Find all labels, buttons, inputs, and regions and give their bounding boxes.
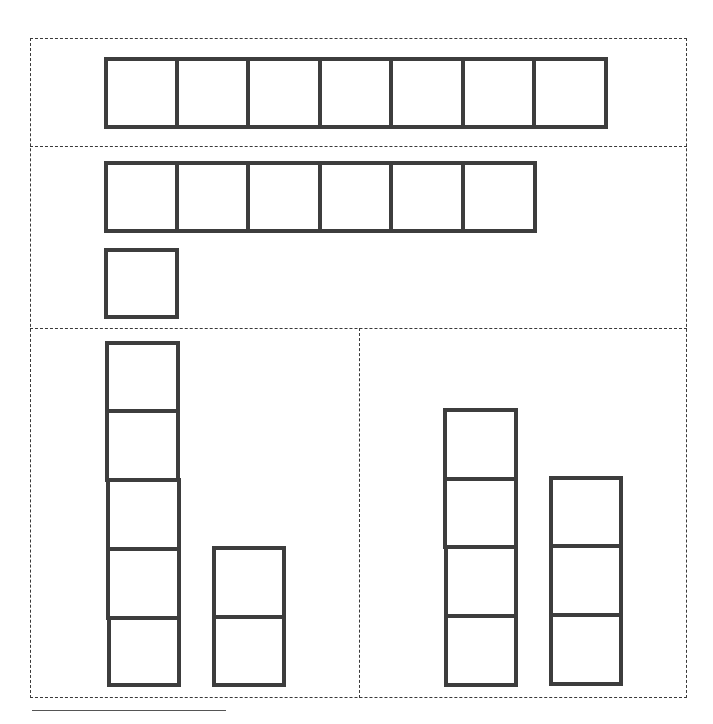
unit-block bbox=[318, 161, 393, 233]
unit-block bbox=[212, 546, 286, 619]
footnote-rule bbox=[32, 710, 226, 711]
unit-block bbox=[461, 57, 536, 129]
unit-block bbox=[175, 161, 250, 233]
unit-block bbox=[105, 341, 180, 413]
unit-block bbox=[443, 408, 518, 481]
unit-block bbox=[175, 57, 250, 129]
unit-block bbox=[549, 544, 623, 617]
unit-block bbox=[389, 161, 465, 233]
divider-row3-split bbox=[359, 328, 360, 698]
divider-row1-row2 bbox=[30, 146, 687, 147]
unit-block bbox=[104, 57, 179, 129]
unit-block bbox=[104, 248, 179, 319]
unit-block bbox=[106, 547, 181, 620]
unit-block bbox=[444, 545, 518, 618]
unit-block bbox=[389, 57, 465, 129]
unit-block bbox=[318, 57, 393, 129]
unit-block bbox=[106, 478, 181, 551]
unit-block bbox=[461, 161, 537, 233]
unit-block bbox=[549, 476, 623, 548]
unit-block bbox=[444, 614, 518, 687]
unit-block bbox=[246, 161, 322, 233]
unit-block bbox=[107, 616, 181, 687]
unit-block bbox=[549, 613, 623, 686]
unit-block bbox=[212, 615, 286, 687]
unit-block bbox=[246, 57, 322, 129]
unit-block bbox=[532, 57, 608, 129]
unit-block bbox=[443, 477, 518, 549]
unit-block bbox=[104, 161, 179, 233]
unit-block bbox=[105, 409, 180, 482]
